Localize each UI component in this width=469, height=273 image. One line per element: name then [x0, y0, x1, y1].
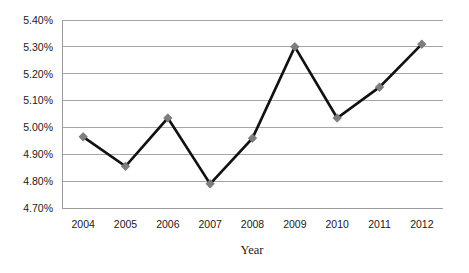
- line-chart: 4.70%4.80%4.90%5.00%5.10%5.20%5.30%5.40%…: [0, 0, 469, 273]
- x-axis-tick-label: 2012: [410, 218, 434, 230]
- x-axis-tick-label: 2010: [325, 218, 349, 230]
- x-axis-tick-labels: 200420052006200720082009201020112012: [71, 218, 433, 230]
- x-axis-tick-label: 2005: [114, 218, 138, 230]
- x-axis-tick-label: 2006: [156, 218, 180, 230]
- x-axis-tick-label: 2008: [241, 218, 265, 230]
- x-axis-title: Year: [240, 243, 264, 257]
- x-axis-tick-label: 2009: [283, 218, 307, 230]
- y-axis-tick-label: 5.30%: [23, 41, 53, 53]
- x-axis-tick-label: 2007: [198, 218, 222, 230]
- y-axis-tick-label: 4.90%: [23, 148, 53, 160]
- y-axis-tick-label: 5.20%: [23, 68, 53, 80]
- chart-canvas: 4.70%4.80%4.90%5.00%5.10%5.20%5.30%5.40%…: [0, 0, 469, 273]
- x-axis-tick-label: 2004: [71, 218, 95, 230]
- y-axis-tick-label: 4.80%: [23, 175, 53, 187]
- y-axis-tick-label: 5.40%: [23, 14, 53, 26]
- chart-background: [0, 0, 469, 273]
- x-axis-tick-label: 2011: [368, 218, 391, 230]
- y-axis-tick-label: 5.00%: [23, 121, 53, 133]
- y-axis-tick-label: 5.10%: [23, 94, 53, 106]
- y-axis-tick-label: 4.70%: [23, 202, 53, 214]
